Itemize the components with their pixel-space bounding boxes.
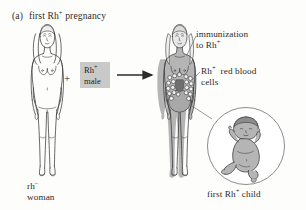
baby-inset xyxy=(208,108,285,185)
rh-positive-male-box: Rh+male xyxy=(80,62,110,88)
label-first-child-prefix: first Rh xyxy=(207,189,236,199)
woman-right-figure xyxy=(157,25,196,178)
label-immunization-superscript: + xyxy=(217,37,221,44)
illustration-layer xyxy=(0,0,306,210)
label-first-rh-positive-child: first Rh+ child xyxy=(207,189,261,200)
uterus-shape xyxy=(175,80,183,92)
figure-panel-a: (a) first Rh+ pregnancy xyxy=(0,0,306,210)
label-rbc-tail: red blood xyxy=(216,66,257,76)
label-immunization: immunizationto Rh+ xyxy=(196,29,248,50)
label-immunization-line2: to Rh xyxy=(196,40,217,50)
label-rbc-line2: cells xyxy=(201,77,218,87)
plus-operator: + xyxy=(64,72,70,84)
label-first-child-tail: child xyxy=(239,189,260,199)
woman-left-figure xyxy=(31,25,63,176)
label-immunization-line1: immunization xyxy=(196,29,248,39)
label-rh-woman-line2: woman xyxy=(27,192,55,202)
label-rh-woman-prefix: rh xyxy=(27,181,35,191)
label-rh-woman-superscript: – xyxy=(35,179,38,186)
male-box-line2: male xyxy=(84,76,101,86)
male-box-superscript: + xyxy=(94,63,98,70)
male-box-line1: Rh xyxy=(84,65,94,75)
label-rbc-prefix: Rh xyxy=(201,66,212,76)
label-red-blood-cells: Rh+ red bloodcells xyxy=(201,66,256,87)
label-rh-negative-woman: rh–woman xyxy=(27,181,55,202)
